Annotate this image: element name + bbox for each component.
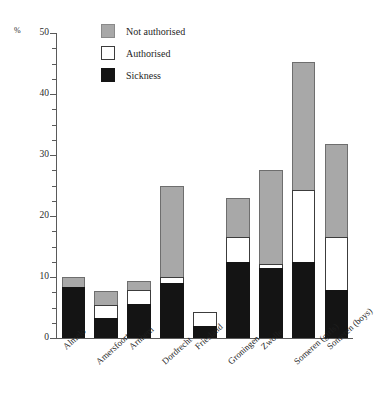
y-tick-minor <box>52 170 56 171</box>
y-tick-major <box>50 94 56 95</box>
bar-segment-not-authorised <box>259 170 283 264</box>
bar-segment-not-authorised <box>226 198 250 238</box>
y-tick-major <box>50 338 56 339</box>
y-tick-label: 30 <box>40 150 50 160</box>
bar-segment-authorised <box>193 312 217 325</box>
y-tick-label: 50 <box>40 28 50 38</box>
bar <box>160 186 184 339</box>
bar-segment-sickness <box>160 283 184 338</box>
grey-swatch-icon <box>101 24 115 38</box>
x-axis-category-labels: AlmeloAmersfoortArnhemDordrechtFriesland… <box>57 340 357 413</box>
bar-segment-authorised <box>94 305 118 318</box>
bar <box>259 170 283 338</box>
legend-item[interactable]: Not authorised <box>101 21 251 41</box>
y-tick-major <box>50 155 56 156</box>
black-swatch-icon <box>101 68 115 82</box>
y-tick-minor <box>52 109 56 110</box>
y-axis-tick-labels: 01020304050 <box>20 33 49 338</box>
bar <box>94 291 118 338</box>
y-tick-minor <box>52 125 56 126</box>
y-tick-minor <box>52 64 56 65</box>
bar-segment-not-authorised <box>94 291 118 305</box>
x-tick-label: Dordrecht <box>160 335 194 367</box>
legend-item[interactable]: Sickness <box>101 65 251 85</box>
bar-segment-authorised <box>226 237 250 261</box>
y-tick-label: 10 <box>40 272 50 282</box>
bar-segment-authorised <box>127 290 151 304</box>
bar-segment-sickness <box>226 262 250 338</box>
bar-segment-not-authorised <box>292 62 316 189</box>
bar-segment-not-authorised <box>127 281 151 290</box>
y-tick-minor <box>52 308 56 309</box>
bar-segment-authorised <box>325 237 349 290</box>
bar-segment-authorised <box>292 190 316 262</box>
y-tick-major <box>50 277 56 278</box>
y-tick-minor <box>52 140 56 141</box>
bar-segment-not-authorised <box>160 186 184 278</box>
legend-item-label: Authorised <box>126 48 170 59</box>
bar <box>325 144 349 338</box>
y-tick-label: 40 <box>40 89 50 99</box>
bar-segment-sickness <box>292 262 316 338</box>
legend-item[interactable]: Authorised <box>101 43 251 63</box>
y-tick-minor <box>52 79 56 80</box>
y-tick-major <box>50 216 56 217</box>
y-tick-minor <box>52 201 56 202</box>
y-tick-major <box>50 33 56 34</box>
y-tick-label: 20 <box>40 211 50 221</box>
legend-item-label: Sickness <box>126 70 161 81</box>
bar <box>226 198 250 338</box>
legend-item-label: Not authorised <box>126 26 185 37</box>
y-tick-minor <box>52 262 56 263</box>
white-swatch-icon <box>101 46 115 60</box>
y-tick-minor <box>52 186 56 187</box>
bar-segment-sickness <box>94 318 118 338</box>
y-tick-label: 0 <box>44 333 49 343</box>
y-tick-minor <box>52 247 56 248</box>
bar <box>292 62 316 338</box>
chart-legend: Not authorisedAuthorisedSickness <box>101 21 251 87</box>
bar-segment-not-authorised <box>325 144 349 237</box>
y-tick-minor <box>52 231 56 232</box>
y-tick-minor <box>52 292 56 293</box>
y-tick-minor <box>52 48 56 49</box>
bar-segment-not-authorised <box>62 277 86 287</box>
y-tick-minor <box>52 323 56 324</box>
